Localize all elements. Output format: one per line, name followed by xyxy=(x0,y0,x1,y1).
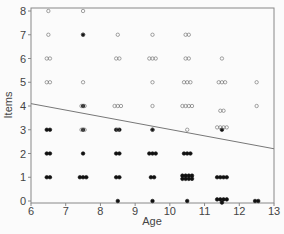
filled-point xyxy=(118,175,122,179)
y-tick-label: 4 xyxy=(20,100,26,112)
x-tick-label: 10 xyxy=(164,205,176,217)
x-axis-title: Age xyxy=(142,215,162,227)
filled-point xyxy=(48,175,52,179)
filled-point xyxy=(225,175,229,179)
x-tick-label: 8 xyxy=(97,205,103,217)
plot-frame xyxy=(31,8,274,203)
scatter-chart: 012345678 678910111213 Age Items xyxy=(0,0,284,234)
filled-point xyxy=(220,201,224,205)
filled-point xyxy=(154,152,158,156)
y-axis-title: Items xyxy=(2,91,14,118)
x-tick-label: 13 xyxy=(268,205,280,217)
filled-point xyxy=(151,199,155,203)
filled-point xyxy=(48,152,52,156)
filled-point xyxy=(185,199,189,203)
filled-point xyxy=(190,177,194,181)
y-axis: 012345678 xyxy=(20,5,31,207)
x-tick-label: 11 xyxy=(199,205,210,217)
x-tick-label: 9 xyxy=(132,205,138,217)
y-tick-label: 1 xyxy=(20,171,26,183)
y-tick-label: 3 xyxy=(20,124,26,136)
x-tick-label: 12 xyxy=(233,205,245,217)
filled-point xyxy=(189,152,193,156)
filled-point xyxy=(84,175,88,179)
x-tick-label: 7 xyxy=(63,205,69,217)
filled-point xyxy=(152,175,156,179)
y-tick-label: 0 xyxy=(20,195,26,207)
x-tick-label: 6 xyxy=(28,205,34,217)
filled-point xyxy=(48,128,52,132)
y-tick-label: 6 xyxy=(20,53,26,65)
y-tick-label: 8 xyxy=(20,5,26,17)
filled-point xyxy=(256,199,260,203)
filled-point xyxy=(225,198,229,202)
filled-point xyxy=(118,152,122,156)
y-tick-label: 5 xyxy=(20,76,26,88)
y-tick-label: 2 xyxy=(20,148,26,160)
filled-point xyxy=(81,152,85,156)
filled-point xyxy=(116,199,120,203)
y-tick-label: 7 xyxy=(20,29,26,41)
